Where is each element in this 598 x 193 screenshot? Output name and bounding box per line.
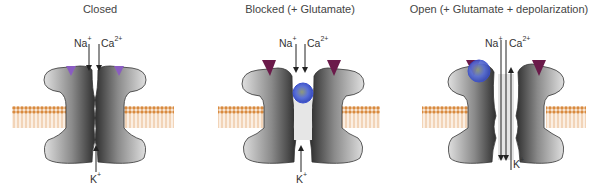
mg-ion-expelled [468, 60, 490, 82]
pore-lumen [294, 100, 312, 140]
label-na: Na+ [279, 37, 297, 49]
label-ca: Ca2+ [307, 37, 328, 49]
membrane-right [546, 106, 586, 128]
label-k: K+ [90, 173, 101, 185]
label-na: Na+ [74, 37, 92, 49]
channel-diagram [400, 0, 598, 193]
label-ca: Ca2+ [509, 37, 530, 49]
membrane-left [218, 106, 266, 128]
membrane-right [124, 106, 174, 128]
membrane-right [340, 106, 380, 128]
label-ca: Ca2+ [101, 37, 122, 49]
panel-blocked: Blocked (+ Glutamate) Na+ Ca2+ K+ [200, 0, 400, 193]
channel-diagram [200, 0, 400, 193]
mg-block-ion [293, 83, 313, 103]
channel-diagram [0, 0, 200, 193]
membrane-left [12, 106, 68, 128]
label-k: K+ [513, 158, 524, 170]
membrane-left [422, 106, 468, 128]
label-na: Na+ [485, 37, 503, 49]
label-k: K+ [296, 173, 307, 185]
panel-closed: Closed Na+ Ca2+ K+ [0, 0, 200, 193]
panel-open: Open (+ Glutamate + depolarization) Na+ … [400, 0, 598, 193]
